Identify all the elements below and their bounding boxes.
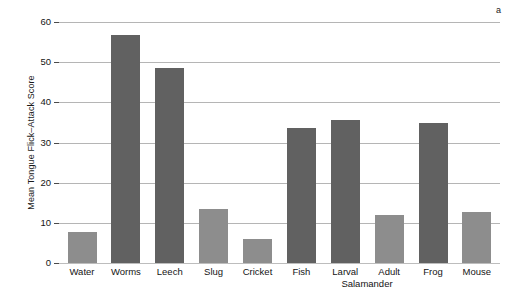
bar-cricket — [243, 239, 272, 263]
bar-slot — [414, 22, 452, 263]
bar-slot — [282, 22, 320, 263]
bar-larval — [331, 120, 360, 263]
x-axis-label-leech: Leech — [151, 266, 189, 277]
x-axis-label-larval: Larval — [326, 266, 364, 277]
y-axis-tick-label: 0 — [46, 258, 51, 268]
y-axis-tick-label: 20 — [40, 178, 51, 188]
x-axis-label-fish: Fish — [282, 266, 320, 277]
bar-worms — [111, 35, 140, 263]
bar-chart-figure: a Mean Tongue Flick–Attack Score 0102030… — [0, 0, 509, 302]
bar-leech — [155, 68, 184, 263]
y-axis-tick-label: 30 — [40, 138, 51, 148]
bar-slug — [199, 209, 228, 263]
bar-frog — [419, 123, 448, 263]
x-axis-label-adult: Adult — [370, 266, 408, 277]
bar-slot — [63, 22, 101, 263]
bar-fish — [287, 128, 316, 263]
y-axis-tick-label: 40 — [40, 97, 51, 107]
y-axis-tick-label: 50 — [40, 57, 51, 67]
bar-mouse — [462, 212, 491, 263]
x-axis-label-frog: Frog — [414, 266, 452, 277]
bar-slot — [239, 22, 277, 263]
bar-adult — [375, 215, 404, 263]
bar-slot — [151, 22, 189, 263]
x-axis-group-annotation: Salamander — [326, 278, 408, 289]
x-axis-label-cricket: Cricket — [239, 266, 277, 277]
panel-label: a — [496, 6, 501, 15]
y-axis-tick-label: 60 — [40, 17, 51, 27]
plot-area: 0102030405060 — [59, 22, 500, 263]
bar-slot — [195, 22, 233, 263]
bar-slot — [107, 22, 145, 263]
bar-slot — [326, 22, 364, 263]
y-axis-tick-label: 10 — [40, 218, 51, 228]
x-axis-label-worms: Worms — [107, 266, 145, 277]
gridline — [59, 263, 500, 264]
bar-series — [59, 22, 500, 263]
x-axis-tick-labels: WaterWormsLeechSlugCricketFishLarvalAdul… — [59, 266, 500, 277]
bar-slot — [370, 22, 408, 263]
bar-slot — [458, 22, 496, 263]
x-axis-label-water: Water — [63, 266, 101, 277]
y-axis-tick — [54, 263, 59, 264]
x-axis-label-mouse: Mouse — [458, 266, 496, 277]
bar-water — [68, 232, 97, 263]
x-axis-label-slug: Slug — [195, 266, 233, 277]
y-axis-title: Mean Tongue Flick–Attack Score — [20, 22, 42, 263]
